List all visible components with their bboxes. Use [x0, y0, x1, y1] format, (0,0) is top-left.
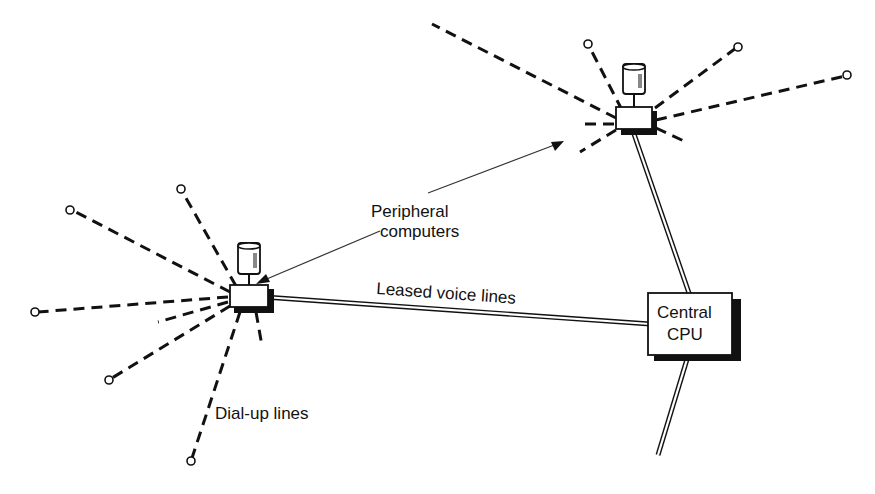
peripheral-computer-right: [616, 64, 657, 135]
label-peripheral-2: computers: [380, 222, 459, 241]
dialup-lines-left: [31, 185, 262, 465]
disk-drive-icon: [238, 243, 260, 274]
terminal-icon: [31, 308, 39, 316]
terminal-icon: [66, 206, 74, 214]
label-central-2: CPU: [667, 325, 703, 344]
disk-drive-icon: [623, 64, 645, 94]
terminal-icon: [177, 185, 185, 193]
label-peripheral-1: Peripheral: [371, 202, 449, 221]
label-central-1: Central: [657, 303, 712, 322]
terminal-icon: [187, 457, 195, 465]
label-dialup-lines: Dial-up lines: [215, 404, 309, 423]
network-diagram: Peripheral computers Leased voice lines …: [0, 0, 875, 494]
terminal-icon: [843, 71, 851, 79]
terminal-icon: [734, 43, 742, 51]
terminal-icon: [105, 376, 113, 384]
label-leased-voice-lines: Leased voice lines: [376, 279, 517, 308]
terminal-icon: [584, 40, 592, 48]
